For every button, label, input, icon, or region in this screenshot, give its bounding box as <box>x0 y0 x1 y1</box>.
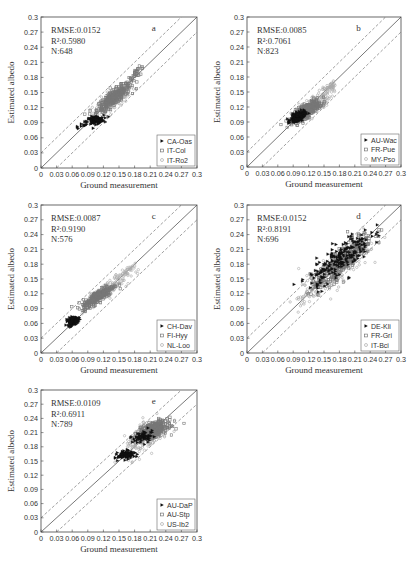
x-tick-label: 0.09 <box>286 169 300 178</box>
x-tick-label: 0.21 <box>143 170 157 179</box>
x-tick-label: 0.15 <box>317 169 331 178</box>
x-tick-label: 0.3 <box>192 170 202 179</box>
legend-entry: FI-Hyy <box>167 332 188 340</box>
legend-entry: CH-Dav <box>167 323 192 330</box>
x-tick-label: 0.21 <box>348 355 362 364</box>
x-tick-label: 0.15 <box>112 170 126 179</box>
x-tick-label: 0.18 <box>332 169 346 178</box>
x-tick-label: 0.18 <box>128 534 142 543</box>
legend: CA-OasIT-ColIT-Ro2 <box>157 135 195 166</box>
legend-entry: FR-Gri <box>371 332 392 339</box>
y-tick-label: 0.21 <box>24 428 38 437</box>
data-points <box>114 412 185 463</box>
y-tick-label: 0.06 <box>24 319 38 328</box>
y-tick-label: 0.3 <box>234 13 244 22</box>
x-tick-label: 0.03 <box>255 355 269 364</box>
y-axis-label: Estimated albedo <box>6 429 16 492</box>
n-stat: N:576 <box>51 234 73 244</box>
x-tick-label: 0.03 <box>255 169 269 178</box>
scatter-panel-c: 00.030.060.090.120.150.180.210.240.270.3… <box>0 193 215 387</box>
y-tick-label: 0.09 <box>230 304 244 313</box>
x-axis-label: Ground measurement <box>285 179 363 189</box>
y-tick-label: 0.18 <box>24 442 38 451</box>
rmse-stat: RMSE:0.0109 <box>51 398 100 408</box>
legend-entry: AU-Wac <box>371 137 397 144</box>
y-tick-label: 0.18 <box>24 73 38 82</box>
legend: AU-WacFR-PueMY-Pso <box>361 134 399 165</box>
x-tick-label: 0.09 <box>81 534 95 543</box>
x-tick-label: 0.12 <box>302 355 316 364</box>
y-axis-label: Estimated albedo <box>212 60 222 123</box>
y-tick-label: 0 <box>34 164 38 173</box>
legend-entry: AU-DaP <box>167 502 193 509</box>
legend-entry: FR-Pue <box>371 146 395 153</box>
y-tick-label: 0.12 <box>230 289 244 298</box>
y-tick-label: 0.06 <box>230 133 244 142</box>
y-tick-label: 0.15 <box>24 88 38 97</box>
x-axis-label: Ground measurement <box>80 544 158 554</box>
y-tick-label: 0.09 <box>230 118 244 127</box>
x-tick-label: 0 <box>245 169 249 178</box>
x-tick-label: 0.03 <box>50 170 64 179</box>
y-tick-label: 0.3 <box>28 201 38 210</box>
y-tick-label: 0.12 <box>24 289 38 298</box>
x-tick-label: 0.24 <box>363 355 377 364</box>
x-tick-label: 0.21 <box>348 169 362 178</box>
y-tick-label: 0.12 <box>230 103 244 112</box>
data-points <box>76 65 144 130</box>
y-tick-label: 0.03 <box>24 513 38 522</box>
x-tick-label: 0.06 <box>271 355 285 364</box>
x-tick-label: 0.06 <box>271 169 285 178</box>
x-tick-label: 0.03 <box>50 534 64 543</box>
y-axis-label: Estimated albedo <box>6 61 16 124</box>
n-stat: N:696 <box>257 234 279 244</box>
x-tick-label: 0.18 <box>128 355 142 364</box>
x-tick-label: 0.18 <box>128 170 142 179</box>
legend-entry: AU-Stp <box>167 511 190 519</box>
x-tick-label: 0.15 <box>112 534 126 543</box>
y-tick-label: 0.15 <box>230 275 244 284</box>
rmse-stat: RMSE:0.0087 <box>51 213 101 223</box>
r2-stat: R²:0.8191 <box>257 224 291 234</box>
y-tick-label: 0.24 <box>230 43 244 52</box>
y-tick-label: 0.03 <box>24 334 38 343</box>
scatter-panel-a: 00.030.060.090.120.150.180.210.240.270.3… <box>0 5 215 202</box>
y-tick-label: 0.12 <box>24 471 38 480</box>
y-tick-label: 0.21 <box>230 245 244 254</box>
legend-entry: IT-Ro2 <box>167 157 188 164</box>
y-tick-label: 0.18 <box>230 260 244 269</box>
legend-entry: IT-Bci <box>371 342 389 349</box>
rmse-stat: RMSE:0.0085 <box>257 25 306 35</box>
y-tick-label: 0.03 <box>24 148 38 157</box>
y-tick-label: 0 <box>240 349 244 358</box>
r2-stat: R²:0.6911 <box>51 409 85 419</box>
r2-stat: R²:0.5980 <box>51 36 85 46</box>
y-tick-label: 0.24 <box>24 43 38 52</box>
x-tick-label: 0.3 <box>192 355 202 364</box>
r2-stat: R²:0.9190 <box>51 224 85 234</box>
panel-label: a <box>152 23 156 33</box>
x-tick-label: 0.24 <box>159 170 173 179</box>
y-tick-label: 0.21 <box>230 58 244 67</box>
legend-entry: NL-Loo <box>167 342 190 349</box>
y-axis-label: Estimated albedo <box>212 247 222 310</box>
x-tick-label: 0.12 <box>302 169 316 178</box>
panel-label: b <box>356 23 361 33</box>
x-tick-label: 0.27 <box>174 355 188 364</box>
x-axis-label: Ground measurement <box>80 180 158 190</box>
x-tick-label: 0.03 <box>50 355 64 364</box>
data-points <box>280 80 337 129</box>
y-tick-label: 0.06 <box>24 499 38 508</box>
legend: CH-DavFI-HyyNL-Loo <box>157 320 195 351</box>
y-tick-label: 0.3 <box>28 13 38 22</box>
y-tick-label: 0.09 <box>24 485 38 494</box>
x-tick-label: 0.27 <box>379 169 393 178</box>
x-tick-label: 0.24 <box>159 534 173 543</box>
y-tick-label: 0.09 <box>24 304 38 313</box>
legend-entry: MY-Pso <box>371 156 395 163</box>
x-tick-label: 0.06 <box>65 534 79 543</box>
panel-label: c <box>152 211 156 221</box>
r2-stat: R²:0.7061 <box>257 36 291 46</box>
scatter-panel-b: 00.030.060.090.120.150.180.210.240.270.3… <box>206 5 419 201</box>
y-tick-label: 0.24 <box>230 230 244 239</box>
